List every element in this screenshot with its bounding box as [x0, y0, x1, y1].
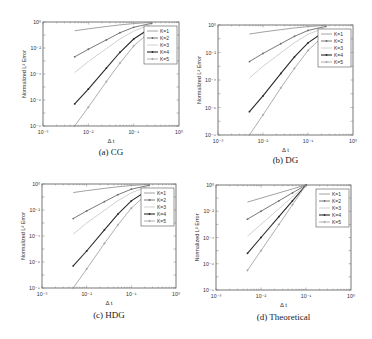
chart-panel-a: 10⁻³10⁻²10⁻¹10⁰10⁰10⁻²10⁻⁴10⁻⁶10⁻⁸Δ tNor… [21, 19, 183, 157]
legend: K=1K=2K=3K=4K=5 [316, 189, 349, 227]
y-tick-label: 10⁻⁴ [203, 235, 214, 241]
data-marker [262, 95, 264, 97]
data-marker [247, 218, 249, 220]
data-marker [119, 51, 121, 53]
y-axis-label: Normalized L² Error [194, 213, 200, 261]
data-marker [119, 32, 121, 34]
data-marker [133, 26, 135, 28]
x-tick-label: 10⁻³ [37, 291, 48, 297]
y-tick-label: 10⁻⁴ [29, 233, 40, 239]
x-tick-label: 10⁰ [172, 291, 180, 297]
legend-label: K=4 [334, 52, 343, 58]
data-marker [105, 67, 107, 69]
legend-marker [149, 199, 151, 201]
y-tick-label: 10⁻² [204, 208, 215, 214]
y-axis-label: Normalized L² Error [21, 50, 27, 98]
y-tick-label: 10⁻⁶ [203, 261, 214, 267]
x-tick-label: 10⁻¹ [301, 293, 312, 299]
legend-label: K=1 [332, 191, 341, 197]
x-axis-label: Δ t [280, 302, 287, 308]
y-tick-label: 10⁻⁶ [30, 97, 41, 103]
y-tick-label: 10⁻² [206, 50, 217, 56]
figure-2x2-convergence-plots: 10⁻³10⁻²10⁻¹10⁰10⁰10⁻²10⁻⁴10⁻⁶10⁻⁸Δ tNor… [0, 0, 372, 339]
y-tick-label: 10⁻⁸ [30, 123, 41, 129]
x-tick-label: 10⁻¹ [126, 291, 137, 297]
data-marker [260, 210, 262, 212]
y-tick-label: 10⁻⁶ [205, 105, 216, 111]
data-marker [280, 73, 282, 75]
data-marker [294, 35, 296, 37]
x-tick-label: 10⁰ [347, 293, 355, 299]
legend-label: K=3 [334, 45, 343, 51]
data-marker [86, 210, 88, 212]
legend-marker [149, 213, 151, 215]
x-tick-label: 10⁻² [258, 138, 269, 144]
legend-label: K=3 [160, 42, 169, 48]
legend-label: K=4 [160, 49, 169, 55]
chart-panel-c: 10⁻³10⁻²10⁻¹10⁰10⁰10⁻²10⁻⁴10⁻⁶10⁻⁸Δ tNor… [20, 181, 180, 320]
data-marker [105, 39, 107, 41]
data-marker [130, 200, 132, 202]
legend-label: K=5 [332, 219, 341, 225]
legend-label: K=5 [157, 218, 166, 224]
legend-marker [324, 200, 326, 202]
panel-caption: (d) Theoretical [257, 312, 311, 322]
data-marker [249, 61, 251, 63]
data-marker [278, 200, 280, 202]
y-tick-label: 10⁰ [206, 182, 214, 188]
panel-caption: (c) HDG [93, 310, 125, 320]
legend-marker [326, 54, 328, 56]
legend-label: K=5 [160, 56, 169, 62]
x-tick-label: 10⁻² [81, 291, 92, 297]
x-tick-label: 10⁻³ [38, 129, 49, 135]
panel-caption: (b) DG [273, 155, 299, 165]
legend-label: K=2 [160, 35, 169, 41]
y-tick-label: 10⁻² [30, 207, 41, 213]
data-marker [260, 237, 262, 239]
data-marker [294, 56, 296, 58]
data-marker [130, 188, 132, 190]
y-tick-label: 10⁻⁸ [205, 132, 216, 138]
legend-label: K=3 [157, 204, 166, 210]
x-tick-label: 10⁻³ [211, 293, 222, 299]
y-axis-label: Normalized L² Error [20, 212, 26, 260]
x-tick-label: 10⁻³ [213, 138, 224, 144]
data-marker [74, 103, 76, 105]
data-marker [117, 213, 119, 215]
y-axis-label: Normalized L² Error [196, 56, 202, 104]
y-tick-label: 10⁻⁴ [30, 71, 41, 77]
legend-label: K=2 [157, 197, 166, 203]
x-tick-label: 10⁻² [83, 129, 94, 135]
y-tick-label: 10⁰ [208, 22, 216, 28]
data-marker [307, 42, 309, 44]
legend-marker [152, 51, 154, 53]
chart-panel-b: 10⁻³10⁻²10⁻¹10⁰10⁰10⁻²10⁻⁴10⁻⁶10⁻⁸Δ tNor… [196, 22, 357, 165]
legend-label: K=2 [332, 198, 341, 204]
legend-label: K=1 [160, 28, 169, 34]
data-marker [249, 111, 251, 113]
x-axis-label: Δ t [105, 300, 112, 306]
y-tick-label: 10⁻⁴ [205, 77, 216, 83]
legend-label: K=5 [334, 59, 343, 65]
data-marker [133, 38, 135, 40]
data-marker [86, 250, 88, 252]
x-tick-label: 10⁰ [175, 129, 183, 135]
legend-label: K=3 [332, 205, 341, 211]
data-marker [72, 218, 74, 220]
legend: K=1K=2K=3K=4K=5 [141, 188, 174, 226]
data-marker [262, 53, 264, 55]
legend: K=1K=2K=3K=4K=5 [318, 29, 351, 67]
data-marker [280, 43, 282, 45]
data-marker [278, 216, 280, 218]
y-tick-label: 10⁰ [33, 19, 41, 25]
y-tick-label: 10⁻⁸ [29, 285, 40, 291]
x-axis-label: Δ t [107, 138, 114, 144]
y-tick-label: 10⁰ [32, 181, 40, 187]
data-marker [104, 229, 106, 231]
y-tick-label: 10⁻⁸ [203, 287, 214, 293]
y-tick-label: 10⁻² [31, 45, 42, 51]
data-marker [104, 201, 106, 203]
x-tick-label: 10⁻² [256, 293, 267, 299]
legend: K=1K=2K=3K=4K=5 [144, 26, 177, 64]
legend-label: K=2 [334, 38, 343, 44]
